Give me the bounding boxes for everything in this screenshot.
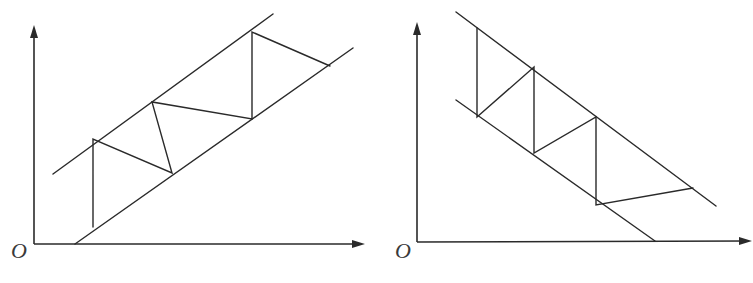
origin-label: O — [11, 238, 27, 263]
origin-label: O — [395, 238, 411, 263]
zigzag-path — [93, 32, 330, 227]
falling-channel-diagram: O — [395, 12, 752, 263]
y-axis-arrow-icon — [413, 22, 421, 35]
lower-boundary-line — [75, 48, 353, 244]
y-axis-arrow-icon — [30, 25, 38, 38]
x-axis — [417, 241, 746, 242]
rising-channel-diagram: O — [11, 14, 365, 263]
x-axis-arrow-icon — [352, 240, 365, 248]
zigzag-path — [477, 28, 693, 205]
x-axis-arrow-icon — [739, 237, 752, 245]
upper-boundary-line — [456, 12, 716, 206]
lower-boundary-line — [456, 100, 655, 241]
diagram-canvas: O O — [0, 0, 753, 283]
upper-boundary-line — [53, 14, 273, 174]
